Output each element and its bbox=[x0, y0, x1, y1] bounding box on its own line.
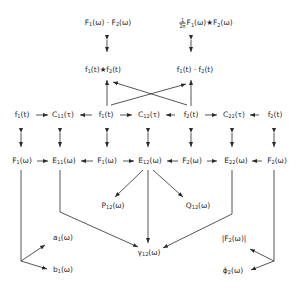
freq-node-E22: E22(ω) bbox=[224, 157, 247, 166]
freq-node-F2-center: F2(ω) bbox=[182, 157, 202, 166]
quad-spectrum-Q12: Q12(ω) bbox=[186, 202, 210, 211]
convolution-of-transforms-label: 12πF1(ω)★F2(ω) bbox=[179, 18, 232, 29]
freq-node-F1: F1(ω) bbox=[12, 157, 32, 166]
magnitude-F2: |F2(ω)| bbox=[222, 235, 247, 244]
time-product-label: f1(t) · f2(t) bbox=[177, 66, 213, 75]
coefficient-b1: b1(ω) bbox=[53, 266, 73, 275]
time-node-c11: C11(τ) bbox=[52, 111, 74, 120]
product-of-transforms-label: F1(ω) · F2(ω) bbox=[85, 19, 131, 28]
time-node-f2-center: f2(t) bbox=[184, 111, 199, 120]
time-node-f1-center: f1(t) bbox=[99, 111, 114, 120]
time-node-c12: C12(τ) bbox=[138, 111, 160, 120]
time-node-c22: C22(τ) bbox=[223, 111, 245, 120]
phase-phi2: ϕ2(ω) bbox=[223, 267, 243, 276]
freq-node-E11: E11(ω) bbox=[52, 157, 75, 166]
one-over-two-pi-fraction: 12π bbox=[179, 18, 185, 29]
freq-node-F1-center: F1(ω) bbox=[97, 157, 117, 166]
time-node-f1: f1(t) bbox=[15, 111, 30, 120]
coherence-gamma12: γ12(ω) bbox=[138, 249, 161, 258]
connector-lines bbox=[0, 0, 305, 289]
time-node-f2: f2(t) bbox=[268, 111, 283, 120]
freq-node-E12: E12(ω) bbox=[138, 157, 161, 166]
fourier-relationship-diagram: F1(ω) · F2(ω) 12πF1(ω)★F2(ω) f1(t)★f2(t)… bbox=[0, 0, 305, 289]
coefficient-a1: a1(ω) bbox=[53, 234, 73, 243]
co-spectrum-P12: P12(ω) bbox=[101, 202, 124, 211]
time-convolution-label: f1(t)★f2(t) bbox=[85, 66, 121, 75]
freq-node-F2: F2(ω) bbox=[267, 157, 287, 166]
